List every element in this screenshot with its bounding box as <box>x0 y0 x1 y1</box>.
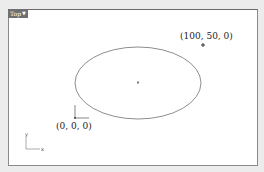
point-marker-icon[interactable] <box>201 43 205 47</box>
axes-gizmo-icon: y x <box>25 131 44 152</box>
axis-x-label: x <box>41 146 44 152</box>
ellipse-center-point[interactable] <box>137 82 139 84</box>
axis-y-label: y <box>25 131 28 138</box>
origin-corner-icon <box>74 105 89 119</box>
point-coordinate-label: (100, 50, 0) <box>180 31 233 41</box>
origin-coordinate-label: (0, 0, 0) <box>56 121 92 131</box>
drawing-canvas[interactable]: y x <box>0 0 264 172</box>
